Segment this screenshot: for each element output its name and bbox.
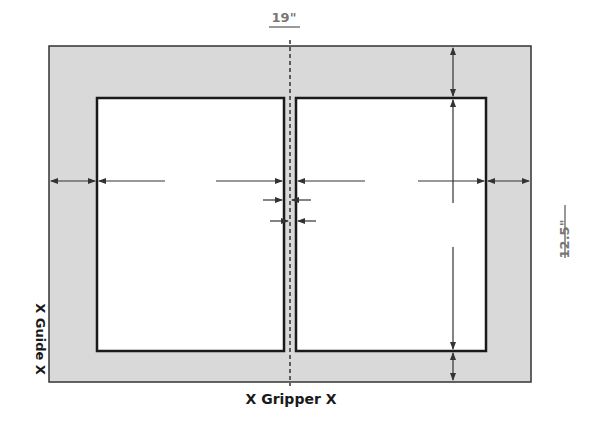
left-page	[97, 98, 284, 351]
sheet-width-label: 19"	[272, 10, 297, 25]
guide-label: X Guide X	[33, 303, 48, 375]
imposition-diagram: 19" 12.5" X Guide X X Gripper X	[0, 0, 598, 422]
gripper-label: X Gripper X	[246, 391, 337, 407]
right-page	[296, 98, 486, 351]
